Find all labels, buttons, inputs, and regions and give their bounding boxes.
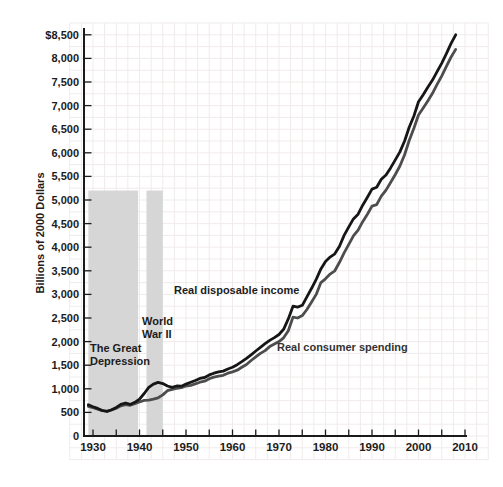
economics-line-chart: 05001,0001,5002,0002,5003,0003,5004,0004…	[0, 0, 503, 487]
y-tick-label: 6,000	[51, 147, 79, 159]
x-tick-label: 1990	[359, 441, 385, 453]
y-tick-label: 7,500	[51, 76, 79, 88]
y-tick-label: 8,000	[51, 52, 79, 64]
y-tick-label: 5,500	[51, 170, 79, 182]
x-tick-label: 1980	[313, 441, 339, 453]
y-axis-title: Billions of 2000 Dollars	[34, 172, 46, 293]
y-tick-label: $8,500	[45, 29, 79, 41]
chart-canvas: 05001,0001,5002,0002,5003,0003,5004,0004…	[0, 0, 503, 487]
annotation-world-war-2: World War II	[142, 315, 173, 341]
y-tick-label: 0	[73, 430, 79, 442]
y-tick-label: 3,000	[51, 288, 79, 300]
x-tick-label: 1970	[266, 441, 292, 453]
y-tick-label: 1,000	[51, 383, 79, 395]
annotation-real-consumer-spending: Real consumer spending	[277, 341, 408, 354]
annotation-real-disposable-income: Real disposable income	[174, 284, 299, 297]
x-tick-label: 2000	[406, 441, 432, 453]
y-tick-label: 4,000	[51, 241, 79, 253]
annotation-great-depression: The Great Depression	[90, 342, 150, 368]
x-tick-label: 1940	[127, 441, 153, 453]
y-tick-label: 5,000	[51, 194, 79, 206]
x-tick-label: 1950	[173, 441, 199, 453]
y-tick-label: 2,500	[51, 312, 79, 324]
y-tick-label: 3,500	[51, 265, 79, 277]
y-tick-label: 6,500	[51, 123, 79, 135]
y-tick-label: 4,500	[51, 218, 79, 230]
y-tick-label: 1,500	[51, 359, 79, 371]
x-tick-label: 2010	[452, 441, 478, 453]
x-tick-label: 1960	[220, 441, 246, 453]
x-tick-label: 1930	[80, 441, 106, 453]
y-tick-label: 500	[61, 406, 79, 418]
event-band	[88, 191, 138, 436]
y-tick-label: 2,000	[51, 336, 79, 348]
y-tick-label: 7,000	[51, 100, 79, 112]
